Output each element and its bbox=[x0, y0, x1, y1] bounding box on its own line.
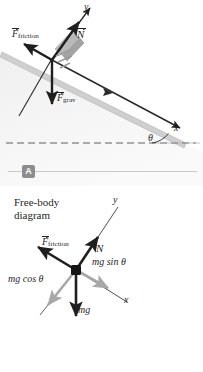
panel-a-theta-label: θ bbox=[148, 133, 153, 143]
panel-b-weight-label: mg bbox=[78, 305, 90, 315]
panel-a-separator-rule bbox=[8, 171, 197, 172]
panel-a-y-axis-label: y bbox=[84, 2, 88, 12]
panel-b-mg-cos-theta-label: mg cos θ bbox=[8, 274, 43, 284]
panel-b-x-axis-label: x bbox=[124, 295, 128, 305]
panel-a-drawing bbox=[0, 0, 203, 186]
panel-a-x-axis-label: x bbox=[174, 123, 178, 133]
panel-a-friction-force-label: Ffriction bbox=[12, 29, 39, 39]
panel-b-friction-force-label: Ffriction bbox=[42, 237, 69, 247]
panel-a-badge: A bbox=[22, 165, 35, 178]
panel-b-free-body-diagram: Free-body diagram y N Ffriction mg sin θ… bbox=[0, 185, 203, 372]
panel-b-mg-sin-theta-label: mg sin θ bbox=[92, 257, 126, 267]
panel-a-inclined-plane: y N Ffriction Fgrav θ x A bbox=[0, 0, 203, 186]
panel-b-y-axis-label: y bbox=[113, 195, 117, 205]
friction-force-vector bbox=[24, 44, 52, 60]
panel-b-title: Free-body diagram bbox=[14, 196, 88, 222]
friction-force-vector bbox=[38, 247, 76, 270]
panel-a-normal-force-label: N bbox=[77, 29, 84, 40]
physics-figure: y N Ffriction Fgrav θ x A bbox=[0, 0, 203, 372]
panel-a-gravity-force-label: Fgrav bbox=[57, 93, 76, 103]
body-point bbox=[71, 265, 81, 275]
mg-cos-theta-component-vector bbox=[48, 270, 76, 305]
panel-b-normal-force-label: N bbox=[96, 243, 103, 254]
